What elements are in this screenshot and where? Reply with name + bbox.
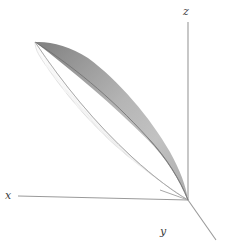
surface-plot-figure: x y z [0,0,225,248]
surface-upper-edge [35,42,188,200]
surface-mesh [35,42,188,200]
plot-canvas [0,0,225,248]
surface-underside [35,42,188,200]
x-axis-label: x [5,190,11,201]
y-axis-line [188,200,216,240]
axis-lines [18,22,216,240]
x-axis-line [18,196,188,200]
surface-body [35,42,188,200]
surface-lower-edge [35,42,188,200]
z-axis-label: z [183,6,189,17]
y-axis-label: y [160,226,166,237]
surface-edges [35,42,188,200]
